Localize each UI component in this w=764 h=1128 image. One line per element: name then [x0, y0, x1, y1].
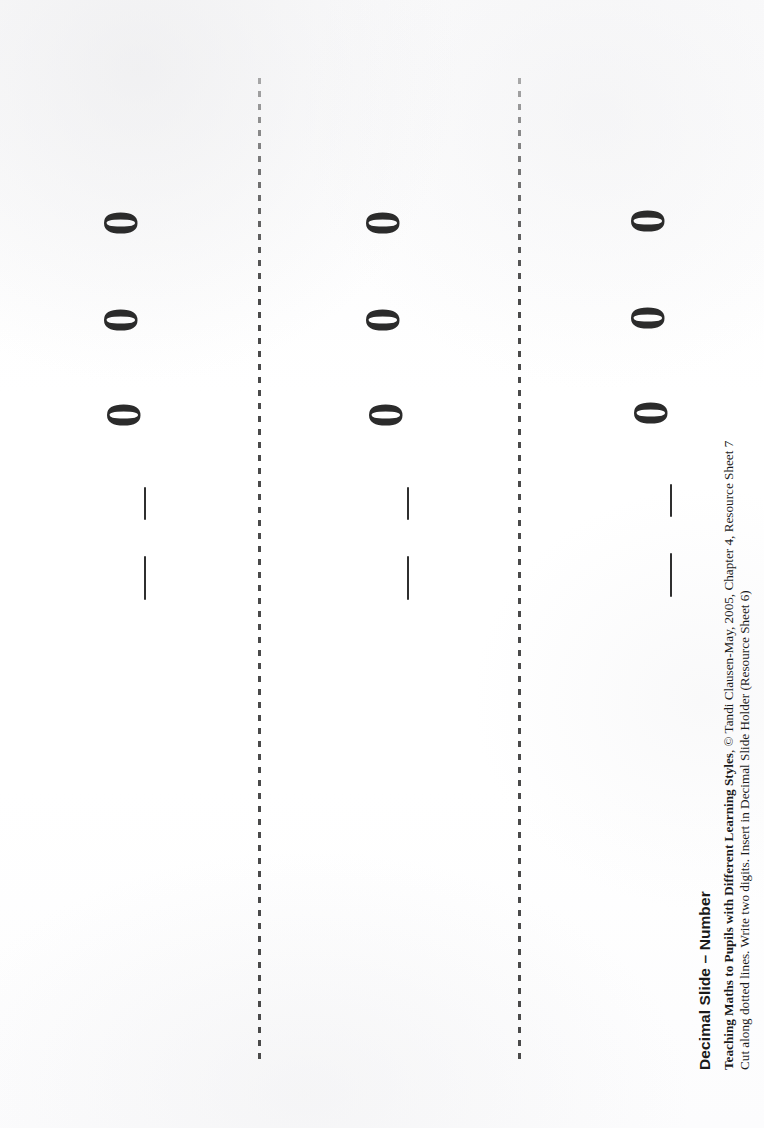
write-digit-dash[interactable]	[670, 553, 672, 597]
decimal-slide-strip-1[interactable]: 0 0 0	[0, 0, 258, 1128]
credit-line: Teaching Maths to Pupils with Different …	[721, 410, 737, 1070]
digit-zero: 0	[362, 203, 402, 243]
worksheet-page: 0 0 0 0 0 0 0 0 0 Decimal Slide – Number…	[0, 0, 764, 1128]
digit-zero: 0	[103, 395, 143, 435]
credit-book-title: Teaching Maths to Pupils with Different …	[721, 753, 736, 1070]
digit-zero: 0	[365, 395, 405, 435]
write-digit-dash[interactable]	[144, 487, 146, 520]
decimal-slide-strip-2[interactable]: 0 0 0	[261, 0, 518, 1128]
digit-zero: 0	[100, 300, 140, 340]
digit-zero: 0	[100, 203, 140, 243]
write-digit-dash[interactable]	[670, 484, 672, 517]
digit-zero: 0	[630, 393, 670, 433]
credit-details: , © Tandi Clausen-May, 2005, Chapter 4, …	[721, 441, 736, 753]
digit-zero: 0	[627, 298, 667, 338]
write-digit-dash[interactable]	[407, 487, 409, 520]
write-digit-dash[interactable]	[407, 556, 409, 600]
instruction-line: Cut along dotted lines. Write two digits…	[737, 410, 753, 1070]
page-title: Decimal Slide – Number	[696, 410, 714, 1070]
write-digit-dash[interactable]	[144, 556, 146, 600]
digit-zero: 0	[627, 201, 667, 241]
caption-block: Decimal Slide – Number Teaching Maths to…	[696, 410, 753, 1070]
digit-zero: 0	[362, 300, 402, 340]
